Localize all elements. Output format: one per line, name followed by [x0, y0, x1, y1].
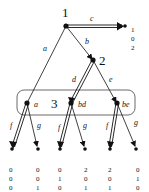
edge-beg: [117, 103, 135, 146]
svg-text:0: 0: [58, 166, 62, 174]
player-1-label: 1: [62, 5, 69, 20]
edge-label-e: e: [109, 75, 113, 84]
svg-text:1: 1: [58, 175, 62, 183]
node-3-a: [24, 100, 29, 105]
edge-label-c: c: [90, 14, 94, 23]
svg-text:0: 0: [58, 184, 62, 192]
payoff-bdg: 2 0 1: [84, 166, 88, 192]
svg-text:0: 0: [9, 175, 13, 183]
payoff-af: 0 0 0: [9, 166, 13, 192]
svg-text:2: 2: [84, 166, 88, 174]
edge-label-g3: g: [134, 118, 138, 127]
payoff-c: 1 0 2: [131, 26, 135, 52]
node-3-bd: [68, 100, 73, 105]
edge-label-f3: f: [106, 121, 110, 130]
payoff-bdf: 0 1 0: [58, 166, 62, 192]
infoset-label-bd: bd: [78, 100, 87, 109]
svg-text:0: 0: [36, 175, 40, 183]
svg-text:0: 0: [131, 35, 135, 43]
svg-text:0: 0: [9, 184, 13, 192]
svg-text:0: 0: [136, 166, 140, 174]
svg-text:0: 0: [84, 175, 88, 183]
svg-text:2: 2: [131, 44, 135, 52]
infoset-label-be: be: [122, 100, 130, 109]
player-3-label: 3: [51, 96, 58, 111]
infoset-label-a: a: [34, 100, 38, 109]
leaf-af: [10, 147, 14, 151]
svg-text:0: 0: [36, 166, 40, 174]
game-tree-diagram: 1 2 3 c a b d e a bd be f g f g f g 1 0 …: [0, 0, 149, 192]
edge-bef: [107, 103, 119, 149]
edge-label-f2: f: [58, 123, 62, 132]
svg-text:0: 0: [136, 184, 140, 192]
payoff-bef: 2 0 1: [108, 166, 112, 192]
leaf-bdg: [83, 147, 87, 151]
svg-text:1: 1: [131, 26, 135, 34]
leaf-ag: [36, 147, 40, 151]
player-2-label: 2: [99, 53, 106, 68]
edge-label-f1: f: [10, 121, 14, 130]
edge-c: [66, 22, 127, 31]
node-2: [90, 57, 95, 62]
edge-label-g2: g: [83, 121, 87, 130]
edge-label-g1: g: [37, 121, 41, 130]
payoff-ag: 0 0 1: [36, 166, 40, 192]
payoff-beg: 0 1 0: [136, 166, 140, 192]
svg-text:1: 1: [108, 184, 112, 192]
leaf-bef: [108, 147, 112, 151]
edge-ag: [27, 103, 37, 146]
edge-label-d: d: [72, 75, 77, 84]
svg-text:2: 2: [108, 166, 112, 174]
svg-text:0: 0: [9, 166, 13, 174]
svg-text:1: 1: [84, 184, 88, 192]
svg-text:1: 1: [36, 184, 40, 192]
edge-label-a: a: [43, 44, 47, 53]
leaf-beg: [134, 147, 138, 151]
svg-text:1: 1: [136, 175, 140, 183]
svg-text:0: 0: [108, 175, 112, 183]
node-3-be: [114, 100, 119, 105]
edge-label-b: b: [85, 37, 89, 46]
leaf-bdf: [58, 147, 62, 151]
node-1: [63, 23, 68, 28]
edge-a: [27, 26, 66, 103]
